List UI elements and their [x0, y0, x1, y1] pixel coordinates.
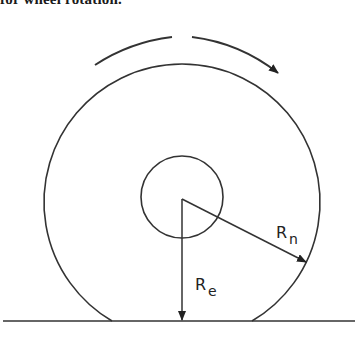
rn-label-sub: n	[289, 231, 298, 247]
re-label-main: R	[195, 275, 206, 294]
tire-diagram: R n R e	[0, 0, 355, 337]
rotation-arc-right	[192, 37, 278, 73]
re-label: R e	[195, 275, 217, 299]
rn-radius-arrow	[182, 199, 306, 262]
rn-label-main: R	[276, 223, 287, 242]
rn-label: R n	[276, 223, 298, 247]
rotation-arc-left	[95, 37, 172, 65]
re-label-sub: e	[208, 283, 217, 299]
rotation-arrow	[95, 37, 278, 73]
